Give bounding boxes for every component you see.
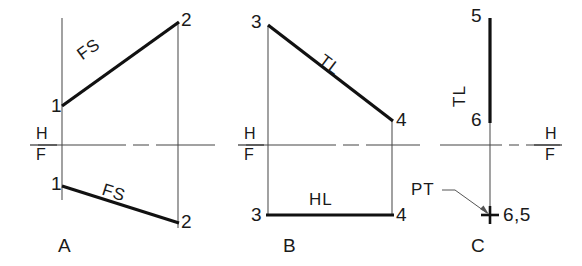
label-point-3-top: 3 — [251, 12, 262, 31]
label-point-4-top: 4 — [396, 110, 407, 129]
reference-label-f-b: F — [244, 147, 254, 163]
annotation-pt-c: PT — [411, 181, 435, 198]
reference-label-f-a: F — [36, 147, 46, 163]
annotation-tl-c: TL — [451, 85, 468, 107]
panel-c-geometry — [440, 18, 562, 224]
pt-leader-arrowhead — [480, 206, 489, 215]
panel-caption-b: B — [283, 236, 296, 255]
annotation-hl-b: HL — [309, 191, 333, 208]
technical-drawing-figure: 1 2 1 2 FS FS H F A 3 4 3 4 TL HL H F B … — [0, 0, 582, 266]
label-point-6-top: 6 — [471, 110, 482, 129]
label-point-5-top: 5 — [471, 6, 482, 25]
reference-label-h-a: H — [36, 126, 48, 142]
label-point-6-5-bottom: 6,5 — [503, 205, 531, 224]
line-1-2-top — [62, 22, 179, 106]
label-point-2-top: 2 — [181, 10, 192, 29]
reference-label-f-c: F — [545, 147, 555, 163]
label-point-1-top: 1 — [51, 96, 62, 115]
reference-label-h-c: H — [545, 126, 557, 142]
label-point-4-bottom: 4 — [396, 205, 407, 224]
panel-caption-c: C — [471, 236, 485, 255]
pt-leader-line — [442, 190, 487, 213]
label-point-2-bottom: 2 — [181, 212, 192, 231]
label-point-3-bottom: 3 — [251, 205, 262, 224]
reference-label-h-b: H — [244, 126, 256, 142]
panel-caption-a: A — [58, 236, 71, 255]
label-point-1-bottom: 1 — [51, 174, 62, 193]
